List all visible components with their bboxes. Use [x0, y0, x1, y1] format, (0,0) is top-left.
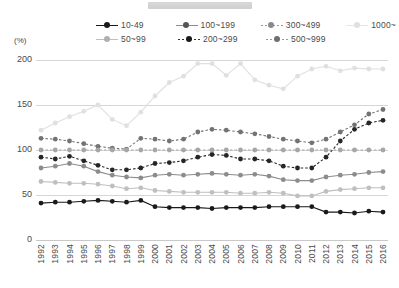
- data-point: [167, 80, 172, 85]
- data-point: [281, 86, 286, 91]
- data-point: [138, 110, 143, 115]
- data-point: [67, 181, 72, 186]
- data-point: [124, 200, 129, 205]
- data-point: [138, 166, 143, 171]
- data-point: [153, 161, 158, 166]
- x-tick-label-2005: 2005: [221, 244, 231, 264]
- data-point: [366, 185, 371, 190]
- data-point: [295, 178, 300, 183]
- data-point: [96, 103, 101, 108]
- window-titlebar: [148, 2, 252, 9]
- data-point: [252, 77, 257, 82]
- chart-legend: 10-49 100~199 300~499 1000~ 50~99: [96, 18, 396, 46]
- data-point: [67, 154, 72, 159]
- data-point: [67, 161, 72, 166]
- x-tick-label-2001: 2001: [164, 244, 174, 264]
- y-tick-label-150: 150: [17, 99, 32, 109]
- x-tick-label-1996: 1996: [93, 244, 103, 264]
- data-point: [181, 158, 186, 163]
- data-point: [181, 205, 186, 210]
- data-point: [309, 140, 314, 145]
- data-point: [153, 204, 158, 209]
- data-point: [381, 118, 386, 123]
- data-point: [39, 166, 44, 171]
- data-point: [81, 181, 86, 186]
- data-point: [309, 148, 314, 153]
- y-tick-label-100: 100: [17, 144, 32, 154]
- data-point: [195, 205, 200, 210]
- data-point: [67, 139, 72, 144]
- chart-plot-area: 050100150200: [36, 60, 388, 240]
- data-point: [138, 198, 143, 203]
- data-point: [252, 131, 257, 136]
- data-point: [110, 117, 115, 122]
- x-tick-label-1992: 1992: [36, 244, 46, 264]
- data-point: [338, 210, 343, 215]
- legend-item-500-999[interactable]: 500~999: [266, 34, 354, 44]
- data-point: [381, 67, 386, 72]
- x-tick-label-1999: 1999: [136, 244, 146, 264]
- data-point: [309, 166, 314, 171]
- x-tick-label-2006: 2006: [236, 244, 246, 264]
- data-point: [53, 180, 58, 185]
- x-tick-label-1994: 1994: [65, 244, 75, 264]
- data-point: [281, 204, 286, 209]
- data-point: [338, 130, 343, 135]
- x-tick-label-2009: 2009: [278, 244, 288, 264]
- x-tick-label-2013: 2013: [335, 244, 345, 264]
- data-point: [181, 74, 186, 79]
- data-point: [39, 155, 44, 160]
- x-tick-label-2014: 2014: [350, 244, 360, 264]
- legend-row-2: 50~99 200~299 500~999: [96, 32, 396, 46]
- data-point: [67, 114, 72, 119]
- data-point: [224, 190, 229, 195]
- data-point: [309, 178, 314, 183]
- legend-item-1000[interactable]: 1000~: [346, 20, 396, 30]
- data-point: [324, 210, 329, 215]
- data-point: [110, 184, 115, 189]
- x-tick-label-2000: 2000: [150, 244, 160, 264]
- legend-item-100-199[interactable]: 100~199: [176, 20, 261, 30]
- data-point: [153, 188, 158, 193]
- x-tick-label-2007: 2007: [250, 244, 260, 264]
- data-point: [110, 167, 115, 172]
- data-point: [381, 210, 386, 215]
- data-point: [352, 127, 357, 132]
- data-point: [238, 61, 243, 66]
- data-point: [53, 121, 58, 126]
- legend-swatch-icon: [176, 20, 198, 30]
- data-point: [224, 153, 229, 158]
- legend-item-300-499[interactable]: 300~499: [261, 20, 346, 30]
- legend-swatch-icon: [178, 34, 200, 44]
- legend-swatch-icon: [96, 34, 118, 44]
- data-point: [124, 123, 129, 128]
- data-point: [39, 128, 44, 133]
- data-point: [181, 137, 186, 142]
- data-point: [138, 136, 143, 141]
- data-point: [324, 155, 329, 160]
- data-point: [81, 109, 86, 114]
- data-point: [181, 173, 186, 178]
- x-tick-label-2016: 2016: [378, 244, 388, 264]
- data-point: [267, 204, 272, 209]
- data-point: [195, 148, 200, 153]
- data-point: [324, 189, 329, 194]
- data-point: [181, 190, 186, 195]
- data-point: [210, 127, 215, 132]
- data-point: [352, 148, 357, 153]
- data-point: [324, 137, 329, 142]
- legend-item-200-299[interactable]: 200~299: [178, 34, 266, 44]
- x-tick-label-2003: 2003: [193, 244, 203, 264]
- legend-item-10-49[interactable]: 10-49: [96, 20, 176, 30]
- x-tick-label-2012: 2012: [321, 244, 331, 264]
- data-point: [210, 171, 215, 176]
- data-point: [281, 164, 286, 169]
- data-point: [238, 130, 243, 135]
- legend-swatch-icon: [96, 20, 118, 30]
- legend-row-1: 10-49 100~199 300~499 1000~: [96, 18, 396, 32]
- data-point: [366, 209, 371, 214]
- series-lines: [36, 60, 388, 240]
- data-point: [124, 175, 129, 180]
- data-point: [153, 94, 158, 99]
- legend-item-50-99[interactable]: 50~99: [96, 34, 178, 44]
